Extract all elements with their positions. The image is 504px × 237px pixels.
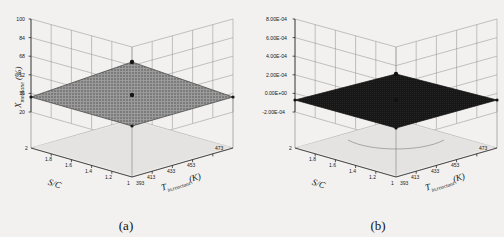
sc-tick-label: 2 xyxy=(289,145,292,151)
sc-tick-label: 1.8 xyxy=(309,156,316,162)
t-tick-label: 473 xyxy=(479,145,487,151)
z-tick-label: 100 xyxy=(5,16,25,22)
sc-tick-label: 1.8 xyxy=(45,156,52,162)
sc-tick-label: 1.4 xyxy=(349,168,356,174)
t-tick-label: 473 xyxy=(215,145,223,151)
sc-tick-label: 1.6 xyxy=(329,162,336,168)
t-tick-label: 453 xyxy=(187,162,195,168)
panel-caption-a: (a) xyxy=(0,218,252,234)
t-tick-label: 413 xyxy=(411,174,419,180)
z-tick-label: 68 xyxy=(5,53,25,59)
z-tick-label: 2.00E-04 xyxy=(257,72,287,78)
t-tick-label: 433 xyxy=(167,168,175,174)
t-tick-label: 393 xyxy=(400,180,408,186)
z-tick-label: 52 xyxy=(5,72,25,78)
panel-a: Xmethane (%) 100 84 68 52 36 20 2 1.8 1.… xyxy=(0,0,252,237)
sc-tick-label: 2 xyxy=(25,145,28,151)
t-tick-label: 393 xyxy=(136,180,144,186)
sc-tick-label: 1 xyxy=(127,180,130,186)
z-tick-label: 84 xyxy=(5,35,25,41)
z-tick-label: 8.00E-04 xyxy=(257,16,287,22)
t-tick-label: 453 xyxy=(451,162,459,168)
z-tick-label: -2.00E-04 xyxy=(255,109,285,115)
panel-caption-b: (b) xyxy=(252,218,504,234)
t-tick-label: 433 xyxy=(431,168,439,174)
z-tick-label: 0.00E+00 xyxy=(257,90,287,96)
panel-b: SCO (%) 8.00E-04 6.00E-04 4.00E-04 2.00E… xyxy=(252,0,504,237)
figure-container: Xmethane (%) 100 84 68 52 36 20 2 1.8 1.… xyxy=(0,0,504,237)
sc-tick-label: 1 xyxy=(391,180,394,186)
surface-plot-b xyxy=(252,0,504,237)
surface-plot-a xyxy=(0,0,252,237)
sc-tick-label: 1.4 xyxy=(85,168,92,174)
t-tick-label: 413 xyxy=(147,174,155,180)
z-tick-label: 20 xyxy=(5,109,25,115)
sc-tick-label: 1.6 xyxy=(65,162,72,168)
z-tick-label: 36 xyxy=(5,90,25,96)
sc-tick-label: 1.2 xyxy=(105,174,112,180)
z-axis-b xyxy=(293,19,295,112)
z-tick-label: 6.00E-04 xyxy=(257,35,287,41)
sc-tick-label: 1.2 xyxy=(369,174,376,180)
z-tick-label: 4.00E-04 xyxy=(257,53,287,59)
